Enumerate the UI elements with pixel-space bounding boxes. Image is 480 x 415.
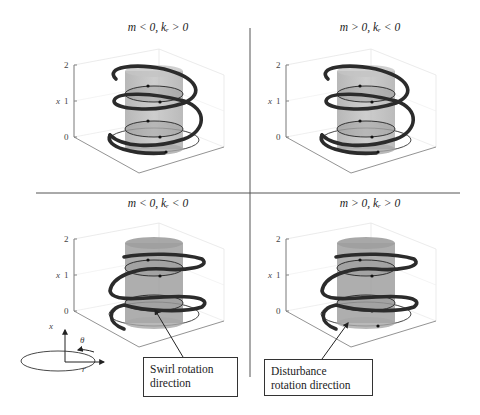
z-tick-0: 0	[276, 132, 281, 142]
z-tick-2: 2	[64, 60, 69, 70]
legend-x-label: x	[48, 321, 53, 331]
panel-title-bottom-left: m < 0, kᵣ < 0	[128, 197, 189, 209]
disturbance-callout-line2: rotation direction	[271, 378, 366, 392]
z-tick-1: 1	[64, 96, 69, 106]
disturbance-callout-line1: Disturbance	[271, 364, 366, 378]
z-axis-label: x	[267, 96, 272, 106]
panel-title-top-right: m > 0, kᵣ < 0	[340, 21, 401, 33]
figure-canvas: 0 1 2 x 0 1 2 x	[0, 0, 480, 415]
z-axis-label: x	[55, 270, 60, 280]
panel-bottom-left-plot: 0 1 2 x	[55, 223, 224, 347]
panel-title-top-left: m < 0, kᵣ > 0	[128, 21, 189, 33]
legend-r-label: r	[82, 364, 86, 374]
z-tick-0: 0	[64, 132, 69, 142]
panel-top-left-plot: 0 1 2 x	[55, 49, 224, 173]
z-tick-2: 2	[276, 234, 281, 244]
legend-theta-label: θ	[80, 335, 85, 345]
z-tick-2: 2	[64, 234, 69, 244]
z-tick-1: 1	[276, 270, 281, 280]
panel-bottom-right-plot: 0 1 2 x	[267, 223, 436, 347]
z-tick-1: 1	[64, 270, 69, 280]
azimuthal-arrow-icon	[78, 350, 94, 352]
z-tick-2: 2	[276, 60, 281, 70]
z-tick-1: 1	[276, 96, 281, 106]
coordinate-legend: x θ r	[21, 321, 104, 374]
panel-top-right-plot: 0 1 2 x	[267, 49, 436, 173]
z-tick-0: 0	[64, 306, 69, 316]
z-tick-0: 0	[276, 306, 281, 316]
z-axis-label: x	[267, 270, 272, 280]
swirl-callout-line1: Swirl rotation	[150, 362, 231, 376]
swirl-callout-line2: direction	[150, 376, 231, 390]
disturbance-callout-box: Disturbance rotation direction	[264, 359, 373, 396]
panel-title-bottom-right: m > 0, kᵣ > 0	[340, 197, 401, 209]
z-axis-label: x	[55, 96, 60, 106]
swirl-callout-box: Swirl rotation direction	[143, 357, 238, 397]
